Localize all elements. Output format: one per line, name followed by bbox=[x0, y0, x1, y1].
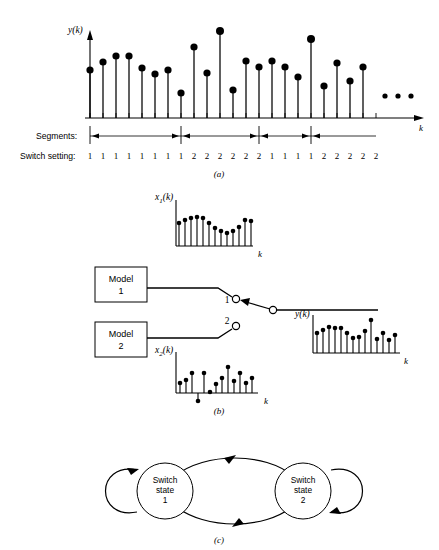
state-node-1[interactable]: Switch state 1 bbox=[137, 463, 193, 519]
switch-setting-digit: 2 bbox=[322, 151, 327, 161]
panel-b-y-plot: y(k) k bbox=[294, 309, 409, 366]
stem-item bbox=[307, 35, 315, 118]
panel-c-caption: (c) bbox=[214, 535, 224, 545]
panel-a-switch-setting-values: 1 1 1 1 1 1 1 1 2 2 2 2 2 2 1 1 1 1 2 2 … bbox=[88, 151, 379, 161]
switch-setting-digit: 1 bbox=[88, 151, 93, 161]
stem-item bbox=[99, 58, 106, 118]
state-1-line3: 1 bbox=[163, 495, 168, 505]
stem-item bbox=[320, 82, 327, 118]
state-node-2[interactable]: Switch state 2 bbox=[275, 463, 331, 519]
x1-stem-series bbox=[177, 215, 254, 246]
switch-setting-digit: 1 bbox=[127, 151, 132, 161]
switch-setting-digit: 2 bbox=[231, 151, 236, 161]
y-stem-series bbox=[315, 318, 398, 353]
panel-b-x2-k-label: k bbox=[264, 396, 269, 406]
switch-terminal-2[interactable] bbox=[232, 322, 239, 329]
model-1-box[interactable]: Model 1 bbox=[95, 267, 147, 302]
panel-a: y(k) k bbox=[20, 25, 424, 179]
panel-b-x1-plot: x1(k) k bbox=[154, 192, 263, 259]
stem-item bbox=[138, 64, 145, 118]
panel-b-x2-axis-label: x2(k) bbox=[154, 345, 173, 358]
panel-a-caption: (a) bbox=[214, 169, 225, 179]
stem-item bbox=[190, 43, 197, 118]
state-2-line3: 2 bbox=[301, 495, 306, 505]
switch-setting-digit: 2 bbox=[335, 151, 340, 161]
stem-item bbox=[229, 86, 236, 118]
switch-setting-digit: 1 bbox=[309, 151, 314, 161]
switch-setting-digit: 1 bbox=[166, 151, 171, 161]
panel-b-caption: (b) bbox=[214, 406, 225, 416]
switch-setting-digit: 2 bbox=[244, 151, 249, 161]
switch-terminal-1-label: 1 bbox=[225, 295, 230, 305]
switch-setting-digit: 2 bbox=[348, 151, 353, 161]
switch-pivot[interactable] bbox=[269, 306, 276, 313]
stem-item bbox=[242, 57, 249, 118]
x1-label-tail: (k) bbox=[163, 192, 174, 203]
panel-b-x1-axis-label: x1(k) bbox=[154, 192, 173, 205]
stem-item bbox=[359, 63, 366, 118]
stem-item bbox=[216, 27, 224, 118]
panel-b-x1-k-label: k bbox=[258, 249, 263, 259]
textbook-figure-svg: y(k) k bbox=[0, 0, 439, 550]
svg-text:x2(k): x2(k) bbox=[154, 345, 173, 358]
switch-setting-digit: 2 bbox=[361, 151, 366, 161]
panel-a-x-axis-label: k bbox=[419, 123, 424, 133]
stem-item bbox=[177, 89, 184, 118]
switch-setting-digit: 2 bbox=[374, 151, 379, 161]
switch-setting-digit: 1 bbox=[114, 151, 119, 161]
stem-item bbox=[346, 77, 353, 118]
stem-item bbox=[86, 66, 93, 118]
panel-c: Switch state 1 Switch state 2 (c) bbox=[106, 455, 363, 545]
switch-setting-digit: 1 bbox=[153, 151, 158, 161]
svg-text:x1(k): x1(k) bbox=[154, 192, 173, 205]
stem-item bbox=[112, 52, 119, 118]
x2-label-tail: (k) bbox=[163, 345, 174, 356]
stem-item bbox=[268, 57, 275, 118]
panel-b-x2-plot: x2(k) k bbox=[154, 345, 269, 406]
panel-a-segment-markers bbox=[90, 126, 376, 144]
figure-root: y(k) k bbox=[0, 0, 439, 550]
switch-terminal-1[interactable] bbox=[232, 295, 239, 302]
panel-a-ellipsis bbox=[382, 93, 413, 98]
panel-a-stem-series bbox=[86, 27, 376, 118]
switch-setting-digit: 1 bbox=[101, 151, 106, 161]
transition-1-to-2 bbox=[175, 455, 293, 476]
panel-a-x-axis bbox=[85, 115, 424, 121]
model-1-wire bbox=[147, 288, 232, 297]
switch-setting-digit: 1 bbox=[179, 151, 184, 161]
model-2-label-line1: Model bbox=[109, 329, 134, 339]
switch-setting-digit: 2 bbox=[205, 151, 210, 161]
switch-setting-digit: 2 bbox=[192, 151, 197, 161]
switch-setting-digit: 2 bbox=[218, 151, 223, 161]
transition-2-to-1 bbox=[175, 506, 293, 527]
model-1-label-line2: 1 bbox=[118, 286, 123, 296]
stem-item bbox=[294, 73, 301, 118]
stem-item bbox=[203, 69, 210, 118]
state-1-line2: state bbox=[156, 485, 174, 495]
switch-setting-digit: 1 bbox=[270, 151, 275, 161]
state-2-line2: state bbox=[294, 485, 312, 495]
x2-stem-series bbox=[178, 365, 255, 404]
switch-arm[interactable] bbox=[240, 298, 277, 314]
stem-item bbox=[164, 66, 171, 118]
stem-item bbox=[255, 63, 262, 118]
panel-b-y-label: y(k) bbox=[294, 309, 310, 320]
switch-setting-digit: 1 bbox=[140, 151, 145, 161]
stem-item bbox=[281, 63, 288, 118]
stem-item bbox=[333, 59, 340, 118]
stem-item bbox=[125, 52, 132, 118]
panel-b-y-k-label: k bbox=[404, 356, 409, 366]
model-1-label-line1: Model bbox=[109, 274, 134, 284]
switch-setting-digit: 1 bbox=[296, 151, 301, 161]
state-1-line1: Switch bbox=[153, 475, 178, 485]
model-2-wire bbox=[147, 329, 232, 338]
state-2-line1: Switch bbox=[291, 475, 316, 485]
model-2-label-line2: 2 bbox=[118, 341, 123, 351]
panel-a-y-axis-label: y(k) bbox=[67, 25, 83, 36]
switch-terminal-2-label: 2 bbox=[225, 316, 230, 326]
panel-a-switch-setting-label: Switch setting: bbox=[20, 151, 75, 161]
panel-b: x1(k) k Model 1 Model 2 1 2 bbox=[95, 192, 409, 416]
switch-setting-digit: 1 bbox=[283, 151, 288, 161]
state-2-self-loop bbox=[329, 469, 363, 514]
model-2-box[interactable]: Model 2 bbox=[95, 322, 147, 357]
